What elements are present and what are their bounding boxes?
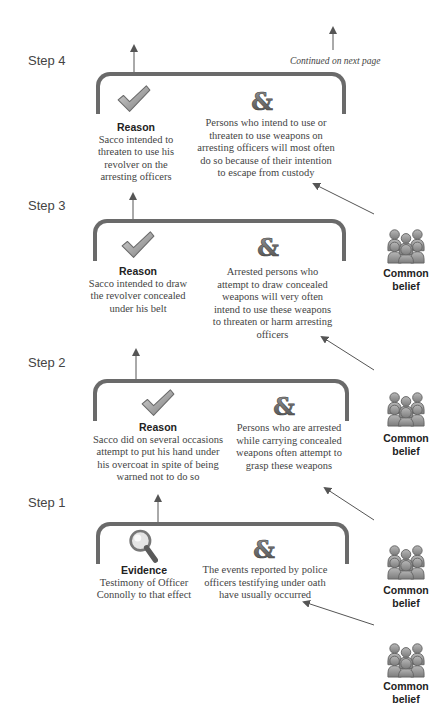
check-icon xyxy=(116,84,152,114)
common-belief-2: Common belief xyxy=(376,584,436,610)
reason-title: Reason xyxy=(88,265,188,278)
common-belief-4: Common belief xyxy=(376,267,436,293)
group-people-icon xyxy=(385,226,427,264)
group-people-icon xyxy=(385,640,427,678)
step-2-generalization: Persons who are arrested while carrying … xyxy=(232,422,346,472)
step-1-label: Step 1 xyxy=(28,495,66,510)
ampersand-icon xyxy=(250,90,274,114)
step-1-evidence: Evidence Testimony of Officer Connolly t… xyxy=(94,564,194,602)
step-3-reason: Reason Sacco intended to draw the revolv… xyxy=(88,265,188,315)
step-4-label: Step 4 xyxy=(28,53,66,68)
step-1-generalization: The events reported by police officers t… xyxy=(200,564,330,602)
step-2-reason: Reason Sacco did on several occasions at… xyxy=(90,421,226,484)
magnifier-icon xyxy=(128,528,158,564)
step-2-label: Step 2 xyxy=(28,355,66,370)
step-3-label: Step 3 xyxy=(28,198,66,213)
step-3-generalization: Arrested persons who attempt to draw con… xyxy=(210,266,335,342)
evidence-title: Evidence xyxy=(94,564,194,577)
common-belief-1: Common belief xyxy=(376,680,436,706)
common-belief-3: Common belief xyxy=(376,432,436,458)
step-2-bracket xyxy=(93,379,349,421)
group-people-icon xyxy=(385,389,427,427)
ampersand-icon xyxy=(256,236,280,260)
check-icon xyxy=(120,230,156,260)
group-people-icon xyxy=(385,542,427,580)
reason-title: Reason xyxy=(90,421,226,434)
step-4-generalization: Persons who intend to use or threaten to… xyxy=(196,117,336,180)
step-4-reason: Reason Sacco intended to threaten to use… xyxy=(86,121,186,184)
continued-note: Continued on next page xyxy=(290,56,381,66)
reason-title: Reason xyxy=(86,121,186,134)
ampersand-icon xyxy=(272,395,296,419)
ampersand-icon xyxy=(252,538,276,562)
check-icon xyxy=(140,388,176,418)
